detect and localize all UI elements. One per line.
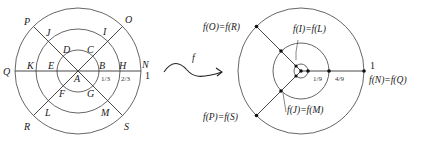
- map-arrow: f: [164, 52, 222, 76]
- map-label-f: f: [192, 52, 196, 63]
- label-H: H: [118, 60, 127, 71]
- radius-label-one: 1: [145, 70, 150, 81]
- label-f-O-eq-f-R: f(O)=f(R): [203, 22, 240, 33]
- label-R: R: [23, 121, 30, 132]
- leader-line-jm: [283, 93, 286, 112]
- label-D: D: [62, 44, 71, 55]
- label-J: J: [46, 27, 51, 38]
- inner-right-dot: [306, 69, 310, 73]
- radius-label-one: 1: [370, 60, 375, 71]
- middle-upper-dot: [279, 49, 283, 53]
- radius-label-one-ninth: 1/9: [313, 75, 322, 83]
- label-f-J-eq-f-M: f(J)=f(M): [287, 105, 323, 116]
- outer-right-dot: [362, 69, 366, 73]
- center-dot: [299, 69, 303, 73]
- radius-label-two-thirds: 2/3: [121, 75, 130, 83]
- radius-label-four-ninths: 4/9: [335, 75, 344, 83]
- label-C: C: [87, 44, 94, 55]
- inner-upper-dot: [294, 64, 297, 67]
- label-N: N: [141, 59, 150, 70]
- middle-lower-dot: [279, 89, 283, 93]
- arrow-head-icon: [216, 68, 222, 76]
- outer-lower-dot: [255, 114, 259, 118]
- label-K: K: [26, 60, 35, 71]
- label-M: M: [100, 107, 110, 118]
- label-P: P: [23, 16, 30, 27]
- label-Q: Q: [3, 66, 11, 77]
- inner-lower-dot: [294, 74, 297, 77]
- label-A: A: [73, 73, 81, 84]
- label-F: F: [58, 88, 66, 99]
- radius-label-one-third: 1/3: [101, 75, 110, 83]
- squiggle-arrow-icon: [164, 64, 222, 77]
- label-f-N-eq-f-Q: f(N)=f(Q): [369, 75, 407, 86]
- left-disk-diagram: P O J I D C Q K E B H N A 1/3 2/3 1 F G …: [3, 8, 150, 134]
- label-I: I: [102, 26, 107, 37]
- label-B: B: [99, 60, 105, 71]
- label-O: O: [125, 14, 132, 25]
- right-disk-diagram: f(O)=f(R) f(I)=f(L) 1/9 4/9 1 f(N)=f(Q) …: [203, 8, 407, 134]
- label-L: L: [44, 107, 51, 118]
- diagram-canvas: P O J I D C Q K E B H N A 1/3 2/3 1 F G …: [0, 0, 431, 142]
- label-E: E: [47, 60, 54, 71]
- label-f-I-eq-f-L: f(I)=f(L): [293, 24, 326, 35]
- middle-right-dot: [327, 69, 331, 73]
- label-f-P-eq-f-S: f(P)=f(S): [203, 112, 238, 123]
- label-G: G: [87, 88, 94, 99]
- label-S: S: [124, 121, 129, 132]
- outer-upper-dot: [255, 25, 259, 29]
